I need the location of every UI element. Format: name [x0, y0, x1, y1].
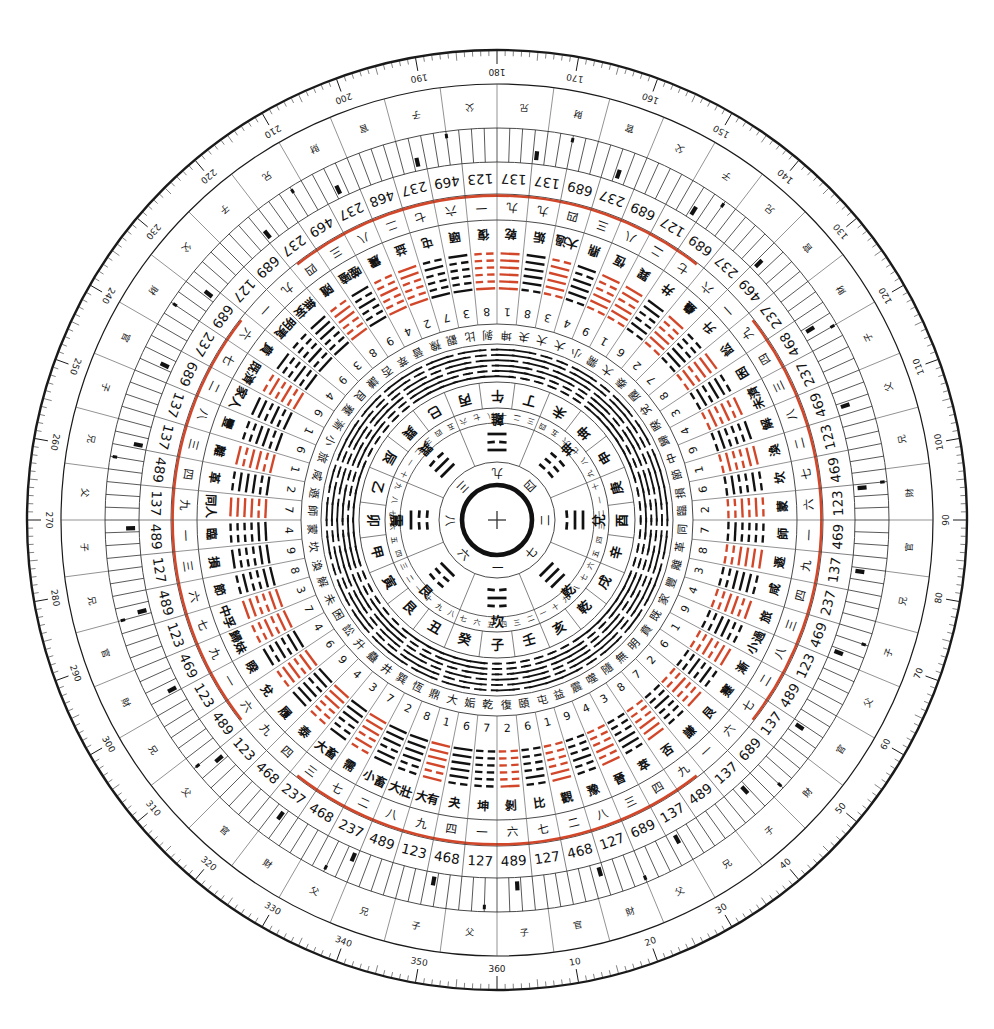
hexagram-stroke	[385, 275, 392, 278]
hexagram-stroke	[512, 355, 531, 358]
hexagram-name-inner: 革	[672, 541, 687, 554]
hexagram-stroke	[487, 606, 494, 607]
hexagram-stroke	[555, 742, 562, 744]
ring-divider	[850, 578, 884, 584]
degree-tick	[715, 106, 717, 110]
degree-tick	[79, 307, 83, 309]
hexagram-line	[265, 414, 268, 421]
hexagram-stroke	[627, 607, 631, 613]
hexagram-stroke	[369, 448, 373, 455]
degree-tick	[108, 258, 112, 261]
hexagram-stroke	[270, 455, 275, 473]
moving-line-block	[416, 158, 418, 167]
hexagram-stroke	[392, 618, 397, 623]
hexagram-line	[607, 293, 614, 296]
hexagram-number: 8	[288, 566, 302, 576]
ring-divider	[232, 831, 259, 866]
hexagram-line	[593, 294, 610, 302]
luoshu-small-numeral: 三	[398, 561, 409, 571]
hexagram-stroke	[246, 448, 248, 455]
hexagram-stroke	[697, 631, 701, 637]
hexagram-number: 2	[421, 316, 432, 331]
degree-label: 230	[144, 222, 163, 242]
hexagram-line	[683, 696, 688, 701]
hexagram-line	[577, 303, 584, 306]
degree-tick	[576, 58, 578, 71]
hexagram-line	[596, 288, 603, 291]
hexagram-stroke	[667, 682, 672, 687]
hexagram-stroke	[659, 690, 664, 695]
hexagram-stroke	[500, 260, 519, 261]
hexagram-stroke	[654, 350, 659, 355]
hexagram-line	[401, 761, 408, 764]
hexagram-line	[231, 535, 232, 542]
degree-tick	[955, 593, 960, 594]
hexagram-stroke	[727, 385, 731, 391]
star-number-cell: 137	[164, 390, 188, 420]
hexagram-line	[365, 293, 371, 297]
hexagram-line	[430, 749, 448, 754]
hexagram-stroke	[645, 693, 651, 698]
hexagram-line	[460, 784, 467, 785]
ring-divider	[126, 394, 158, 405]
hexagram-line	[243, 459, 245, 466]
hexagram-stroke	[702, 621, 705, 628]
luoshu-small-numeral: 九	[585, 468, 597, 479]
hexagram-number: 1	[668, 621, 683, 634]
hexagram-line	[459, 681, 466, 683]
star-number-cell: 137	[148, 490, 165, 517]
degree-tick	[69, 329, 74, 331]
degree-tick	[895, 759, 899, 762]
hexagram-stroke	[348, 724, 354, 728]
hexagram-line	[373, 305, 379, 309]
hexagram-stroke	[707, 610, 710, 617]
hexagram-name: 咸	[766, 582, 783, 597]
hexagram-line	[722, 591, 724, 598]
hexagram-stroke	[602, 275, 619, 283]
hexagram-line	[555, 672, 562, 675]
degree-tick	[722, 110, 724, 114]
kinship-cell: 兄	[763, 202, 776, 215]
degree-tick	[910, 307, 914, 309]
hexagram-line	[664, 321, 670, 326]
hexagram-stroke	[277, 354, 288, 369]
degree-tick	[625, 69, 626, 74]
hexagram-line	[377, 286, 384, 289]
moving-line-block	[855, 571, 864, 572]
hexagram-line	[654, 454, 660, 472]
mountain-cell: 辰	[379, 449, 399, 469]
hexagram-line	[480, 376, 499, 377]
degree-label: 120	[877, 286, 894, 306]
ring-divider	[330, 882, 347, 923]
hexagram-stroke	[564, 262, 571, 264]
hexagram-stroke	[480, 371, 487, 372]
hexagram-line	[247, 421, 250, 428]
ring-divider	[520, 129, 522, 163]
hexagram-line	[294, 389, 298, 395]
hexagram-stroke	[659, 535, 662, 554]
degree-tick	[42, 632, 47, 633]
degree-tick	[79, 731, 83, 733]
hexagram-stroke	[566, 739, 573, 741]
hexagram-stroke	[347, 330, 353, 335]
ring-divider	[676, 181, 693, 210]
hexagram-number: 7	[630, 667, 644, 681]
ring-divider	[239, 225, 261, 251]
hexagram-stroke	[414, 279, 421, 281]
hexagram-stroke	[449, 264, 456, 265]
degree-tick	[601, 972, 602, 977]
ring-divider	[762, 366, 785, 378]
hexagram-stroke	[753, 446, 758, 464]
hexagram-line	[368, 411, 373, 417]
degree-tick	[537, 979, 538, 987]
hexagram-line	[521, 290, 528, 291]
degree-tick	[801, 166, 804, 170]
hexagram-stroke	[362, 570, 365, 577]
hexagram-stroke	[653, 566, 655, 573]
hexagram-line	[409, 772, 416, 774]
hexagram-line	[733, 570, 738, 588]
hexagram-stroke	[436, 772, 443, 774]
hexagram-stroke	[430, 574, 435, 580]
hexagram-line	[368, 430, 372, 436]
kinship-cell: 財	[120, 696, 134, 709]
